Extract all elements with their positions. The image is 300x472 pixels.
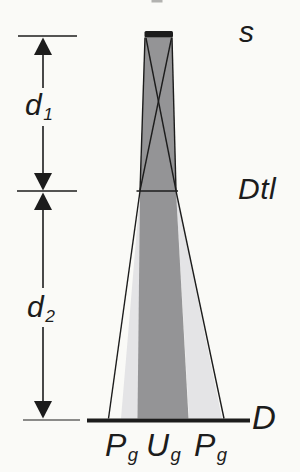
- label-detail: Dtl: [238, 174, 276, 204]
- penumbra-right-base-text: P: [194, 427, 216, 463]
- label-detector: D: [252, 401, 276, 434]
- page-artifact: [152, 0, 163, 3]
- unsharpness-figure: s Dtl D d1 d2 Pg Ug Pg: [0, 0, 300, 472]
- source-label-text: s: [239, 15, 255, 48]
- detector-label-text: D: [252, 399, 276, 436]
- umbra-subscript-text: g: [171, 444, 182, 465]
- arrowhead-down-icon: [34, 401, 52, 419]
- d1-subscript-text: 1: [43, 104, 53, 124]
- d2-base-text: d: [27, 290, 44, 323]
- d2-subscript-text: 2: [45, 306, 55, 326]
- source-bar: [145, 31, 174, 38]
- arrowhead-down-icon: [34, 173, 52, 191]
- beam-upper-region: [140, 38, 176, 192]
- penumbra-left-base-text: P: [105, 427, 127, 463]
- label-distance-d1: d1: [25, 90, 53, 120]
- d1-base-text: d: [25, 88, 42, 121]
- label-source: s: [239, 17, 255, 47]
- arrowhead-up-icon: [34, 193, 52, 211]
- label-umbra: Ug: [146, 429, 181, 461]
- label-penumbra-right: Pg: [194, 429, 228, 461]
- umbra-base-text: U: [146, 427, 170, 463]
- label-penumbra-left: Pg: [105, 429, 139, 461]
- detail-label-text: Dtl: [238, 172, 276, 205]
- penumbra-right-subscript-text: g: [217, 444, 228, 465]
- arrowhead-up-icon: [34, 38, 52, 56]
- penumbra-left-subscript-text: g: [128, 444, 139, 465]
- label-distance-d2: d2: [27, 292, 55, 322]
